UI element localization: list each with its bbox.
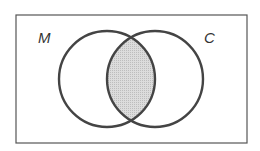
set-m-label: M bbox=[38, 29, 51, 46]
set-c-label: C bbox=[204, 29, 215, 46]
venn-diagram: M C bbox=[0, 0, 260, 151]
